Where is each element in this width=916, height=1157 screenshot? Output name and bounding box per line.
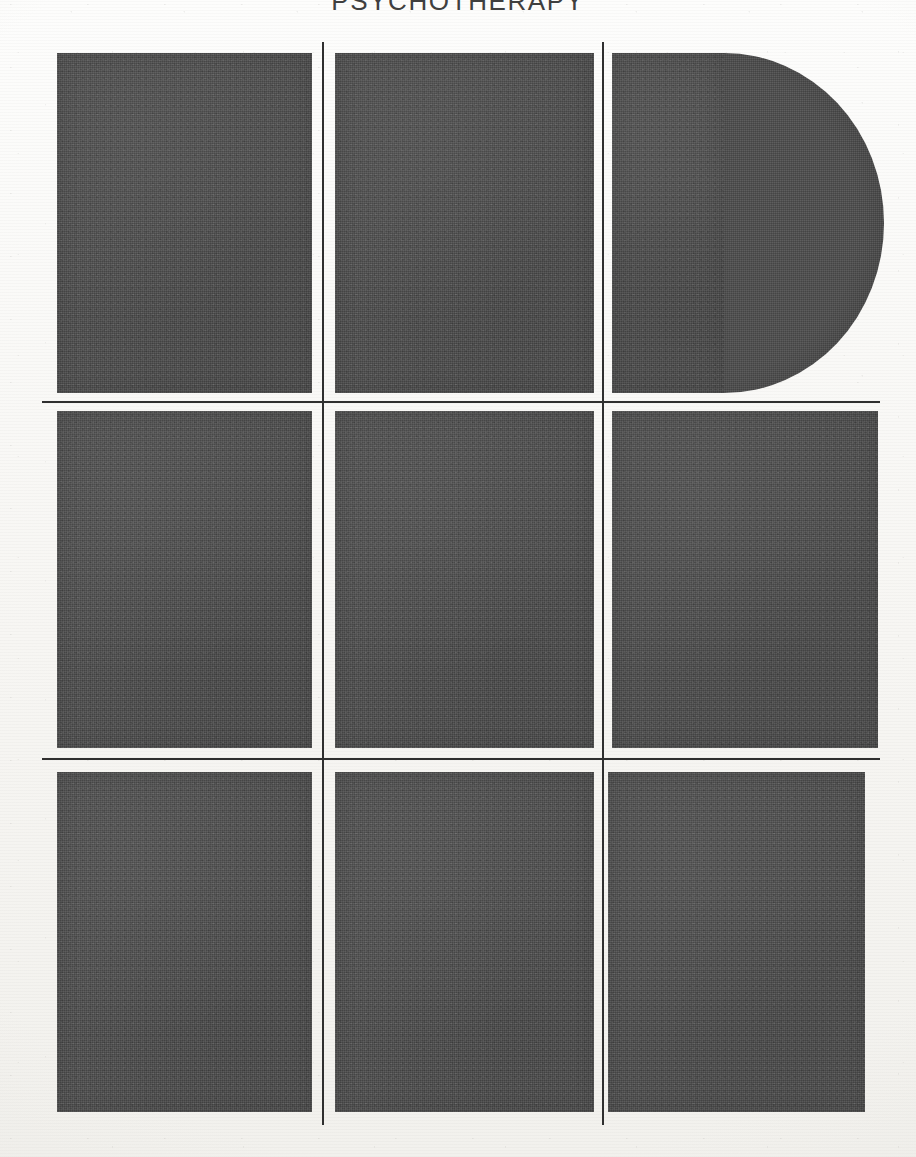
scanned-page: PSYCHOTHERAPY: [0, 0, 916, 1157]
plate-row1-col3-d-shape: [612, 53, 724, 393]
vertical-rule-1: [322, 42, 324, 1125]
plate-row2-col1: [57, 411, 312, 748]
plate-row3-col2: [335, 772, 594, 1112]
plate-row2-col3: [612, 411, 878, 748]
horizontal-rule-1: [42, 401, 880, 403]
plate-row3-col1: [57, 772, 312, 1112]
plate-row1-col3-semicircle-bulge: [724, 53, 884, 393]
plate-row1-col2: [335, 53, 594, 393]
vertical-rule-2: [602, 42, 604, 1125]
page-title: PSYCHOTHERAPY: [0, 0, 916, 17]
plate-row2-col2: [335, 411, 594, 748]
horizontal-rule-2: [42, 758, 880, 760]
plate-row3-col3: [608, 772, 865, 1112]
plate-row1-col1: [57, 53, 312, 393]
